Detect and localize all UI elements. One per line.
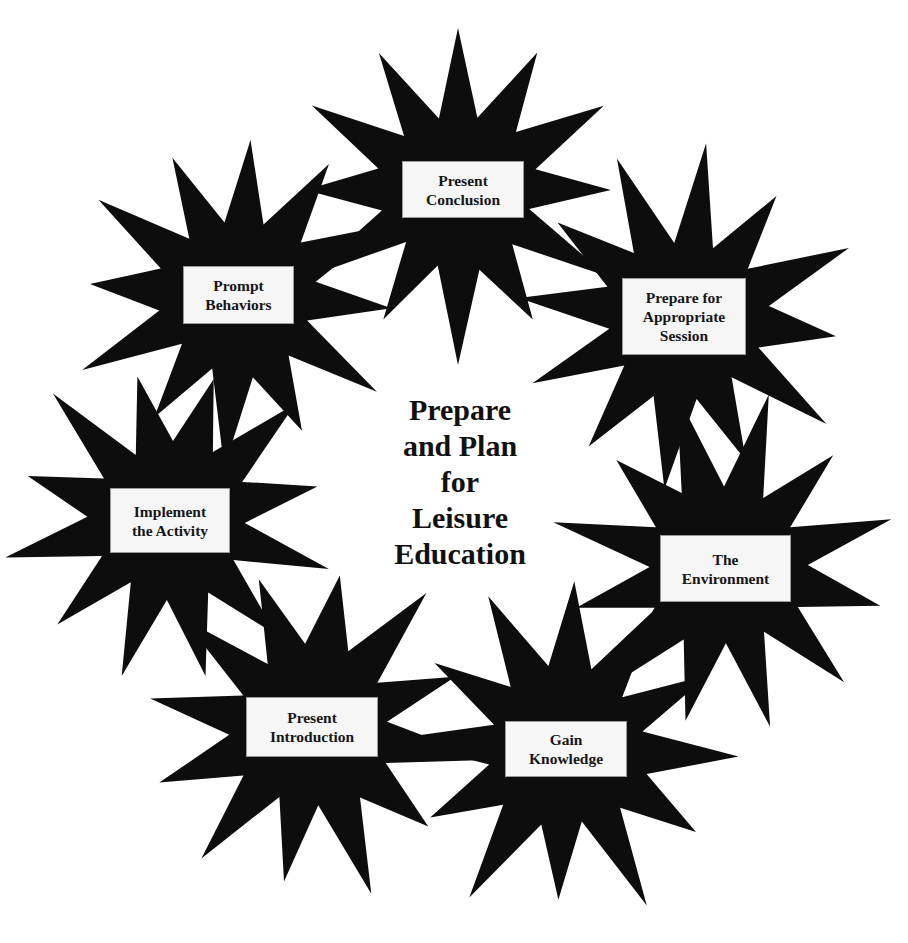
center-title-line: Leisure	[340, 500, 580, 536]
step-label-present-conclusion: Present Conclusion	[402, 161, 524, 218]
center-title: Prepare and Plan for Leisure Education	[340, 392, 580, 572]
center-title-line: and Plan	[340, 428, 580, 464]
center-title-line: for	[340, 464, 580, 500]
step-label-the-environment: The Environment	[660, 535, 791, 602]
step-label-prompt-behaviors: Prompt Behaviors	[183, 266, 294, 324]
step-label-implement-the-activity: Implement the Activity	[110, 488, 230, 553]
step-label-gain-knowledge: Gain Knowledge	[505, 721, 627, 777]
step-label-prepare-for-appropriate-session: Prepare for Appropriate Session	[622, 278, 746, 355]
center-title-line: Prepare	[340, 392, 580, 428]
center-title-line: Education	[340, 536, 580, 572]
step-label-present-introduction: Present Introduction	[246, 697, 378, 757]
